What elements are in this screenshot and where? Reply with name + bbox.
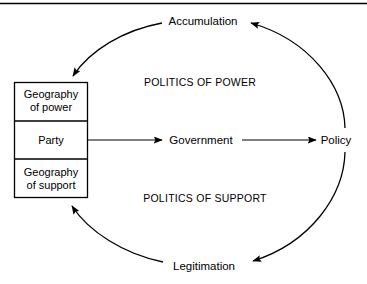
cell-geography-of-power-line1: Geography [24, 88, 79, 100]
diagram-figure: Geography of power Party Geography of su… [0, 0, 367, 284]
diagram-canvas: Geography of power Party Geography of su… [0, 0, 367, 284]
node-accumulation-label: Accumulation [168, 15, 237, 27]
cell-party-label: Party [38, 134, 64, 146]
cell-geography-of-power-line2: of power [30, 101, 73, 113]
edge-policy-to-accumulation [251, 23, 345, 128]
cell-geography-of-support-line2: of support [27, 179, 76, 191]
node-legitimation-label: Legitimation [173, 260, 235, 272]
caption-politics-of-support: POLITICS OF SUPPORT [143, 192, 267, 204]
node-government-label: Government [169, 134, 233, 146]
edge-legitimation-to-geography-of-support [72, 206, 163, 262]
caption-politics-of-power: POLITICS OF POWER [144, 76, 256, 88]
node-policy-label: Policy [321, 134, 352, 146]
edge-accumulation-to-geography-of-power [73, 23, 162, 76]
edge-policy-to-legitimation [253, 152, 345, 261]
cell-geography-of-support-line1: Geography [24, 166, 79, 178]
